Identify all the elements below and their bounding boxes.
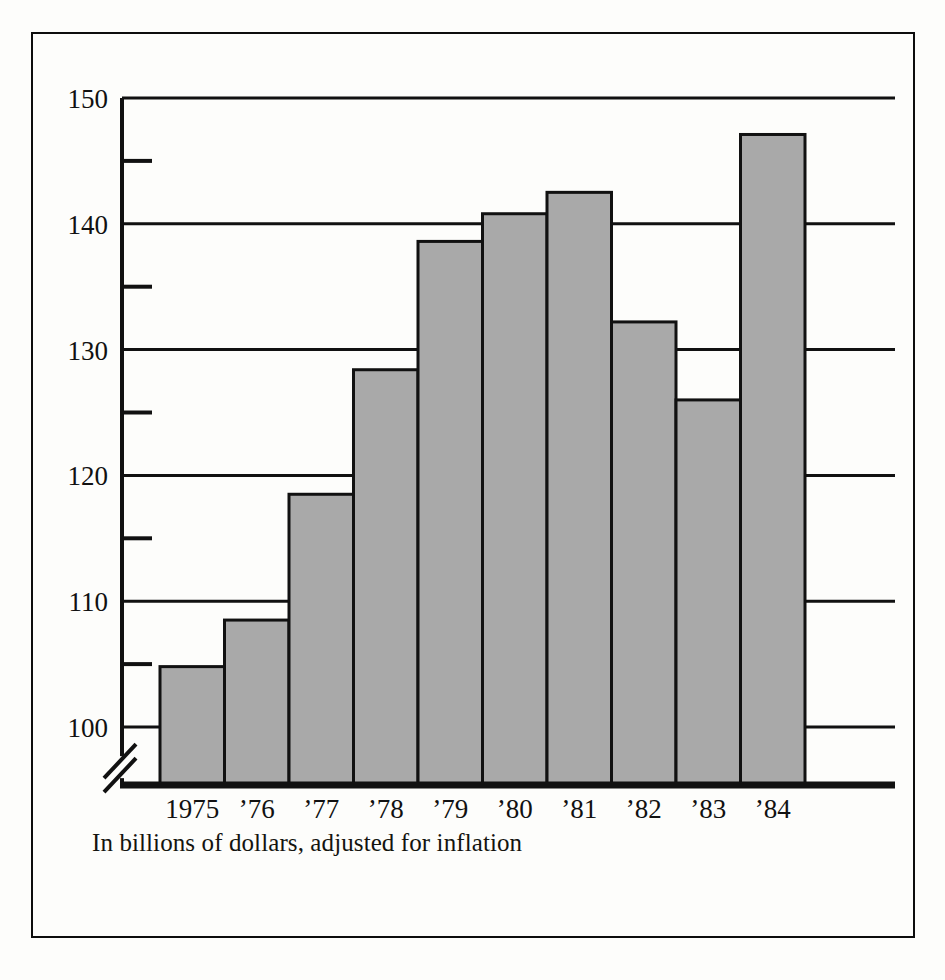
- x-tick-label-76: ’76: [239, 794, 275, 824]
- x-tick-label-1975: 1975: [165, 794, 219, 824]
- y-tick-label-130: 130: [68, 336, 109, 366]
- x-tick-label-84: ’84: [755, 794, 791, 824]
- bar-78: [354, 370, 419, 785]
- x-tick-labels-group: 1975’76’77’78’79’80’81’82’83’84: [165, 794, 791, 824]
- bar-79: [418, 241, 483, 785]
- minor-ticks-group: [122, 161, 152, 664]
- y-tick-labels-group: 100110120130140150: [68, 84, 109, 743]
- y-tick-label-140: 140: [68, 210, 109, 240]
- x-tick-label-81: ’81: [561, 794, 597, 824]
- bar-76: [225, 620, 290, 785]
- bar-77: [289, 494, 354, 785]
- bar-80: [483, 214, 548, 785]
- y-tick-label-120: 120: [68, 461, 109, 491]
- bar-84: [741, 134, 806, 785]
- bars-group: [160, 134, 805, 785]
- bar-81: [547, 192, 612, 785]
- chart-caption: In billions of dollars, adjusted for inf…: [92, 829, 522, 857]
- x-tick-label-82: ’82: [626, 794, 662, 824]
- y-tick-label-100: 100: [68, 713, 109, 743]
- y-tick-label-110: 110: [69, 587, 109, 617]
- x-tick-label-83: ’83: [690, 794, 726, 824]
- bar-83: [676, 400, 741, 785]
- bar-82: [612, 322, 677, 785]
- x-tick-label-80: ’80: [497, 794, 533, 824]
- x-tick-label-79: ’79: [432, 794, 468, 824]
- bar-1975: [160, 667, 225, 785]
- y-tick-label-150: 150: [68, 84, 109, 114]
- x-tick-label-78: ’78: [368, 794, 404, 824]
- x-tick-label-77: ’77: [303, 794, 339, 824]
- figure-page: 100110120130140150 1975’76’77’78’79’80’8…: [0, 0, 945, 980]
